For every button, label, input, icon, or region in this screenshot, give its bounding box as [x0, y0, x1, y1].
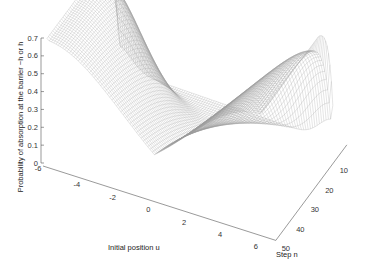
x-axis-ticks: -6-4-20246: [35, 164, 258, 251]
z-tick-label: 0.3: [28, 105, 38, 114]
y-axis-line: [276, 145, 347, 241]
z-tick-label: 0.5: [28, 69, 38, 78]
x-tick-label: 0: [146, 205, 150, 214]
y-axis-label: Step n: [276, 250, 298, 259]
x-axis-label: Initial position u: [108, 243, 160, 252]
z-tick-label: 0.6: [28, 51, 38, 60]
y-tick-label: 40: [296, 225, 304, 234]
z-tick-label: 0.7: [28, 34, 38, 43]
z-axis-ticks: 00.10.20.30.40.50.60.7: [28, 34, 44, 168]
surface-mesh: [47, 0, 333, 155]
x-tick-label: 2: [182, 218, 186, 227]
y-tick-label: 30: [311, 205, 319, 214]
mesh-lines: [47, 0, 333, 155]
x-axis-line: [43, 166, 276, 240]
z-tick-label: 0.2: [28, 123, 38, 132]
y-axis-ticks: 1020304050: [282, 166, 348, 253]
x-tick-label: -6: [35, 164, 42, 173]
z-tick-label: 0.1: [28, 141, 38, 150]
y-tick-label: 20: [325, 186, 333, 195]
z-axis-label: Probability of absorption at the barrier…: [16, 42, 25, 193]
z-tick-label: 0.4: [28, 87, 38, 96]
x-tick-label: -4: [73, 180, 80, 189]
axes: 00.10.20.30.40.50.60.7 -6-4-20246 102030…: [28, 34, 348, 254]
x-tick-label: 4: [218, 230, 222, 239]
surface-plot: 00.10.20.30.40.50.60.7 -6-4-20246 102030…: [0, 0, 390, 280]
x-tick-label: -2: [109, 193, 116, 202]
y-tick-label: 10: [340, 166, 348, 175]
x-tick-label: 6: [254, 242, 258, 251]
